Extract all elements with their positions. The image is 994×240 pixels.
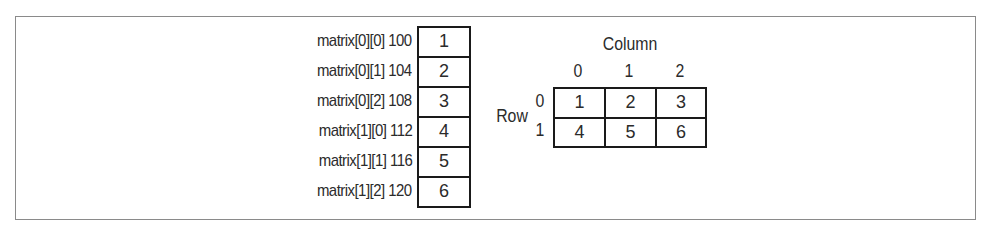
memory-cell: 2 <box>417 56 471 88</box>
address-label: matrix[1][1] 116 <box>318 146 412 176</box>
row-index: 0 <box>533 91 547 112</box>
address-label: matrix[1][0] 112 <box>318 116 412 146</box>
memory-cell: 3 <box>417 86 471 118</box>
row-index: 1 <box>533 120 547 141</box>
address-label: matrix[0][1] 104 <box>317 56 412 86</box>
address-label: matrix[0][2] 108 <box>317 86 412 116</box>
grid-cell: 1 <box>553 87 606 119</box>
memory-cell: 5 <box>417 146 471 178</box>
grid-cell: 5 <box>604 117 657 148</box>
address-label: matrix[1][2] 120 <box>317 176 412 206</box>
memory-cell: 6 <box>417 176 471 208</box>
row-title: Row <box>493 106 532 127</box>
column-index: 0 <box>565 61 591 82</box>
column-title: Column <box>595 34 665 55</box>
memory-cell: 4 <box>417 116 471 148</box>
grid-cell: 3 <box>655 87 707 119</box>
column-index: 2 <box>667 61 693 82</box>
address-label: matrix[0][0] 100 <box>317 26 412 56</box>
grid-cell: 4 <box>553 117 606 148</box>
memory-cell: 1 <box>417 26 471 58</box>
grid-cell: 2 <box>604 87 657 119</box>
grid-cell: 6 <box>655 117 707 148</box>
column-index: 1 <box>616 61 642 82</box>
